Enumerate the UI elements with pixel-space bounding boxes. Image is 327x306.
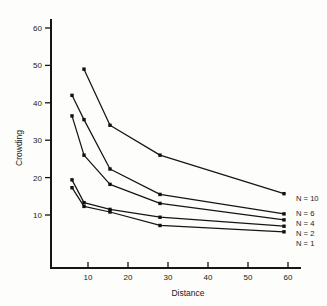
series-line	[84, 69, 284, 194]
x-axis-title: Distance	[171, 288, 204, 298]
y-axis-tick-labels: 60 50 40 30 20 10	[33, 24, 42, 220]
series-label-n1: N = 1	[296, 239, 314, 248]
crowding-vs-distance-figure: 60 50 40 30 20 10 10 20 30 40	[0, 0, 327, 306]
data-point	[158, 216, 161, 219]
series-line	[72, 188, 284, 232]
data-point	[158, 202, 161, 205]
data-point	[70, 94, 73, 97]
data-point	[108, 124, 111, 127]
y-tick-label-20: 20	[33, 174, 42, 183]
series-label-n10: N = 10	[296, 194, 319, 203]
x-tick-label-20: 20	[124, 273, 133, 282]
data-point	[70, 178, 73, 181]
data-point	[158, 224, 161, 227]
y-tick-label-10: 10	[33, 211, 42, 220]
series-label-n2: N = 2	[296, 229, 314, 238]
chart-canvas: 60 50 40 30 20 10 10 20 30 40	[0, 0, 327, 306]
x-tick-label-10: 10	[84, 273, 93, 282]
data-point	[108, 183, 111, 186]
data-point	[282, 225, 285, 228]
data-point	[282, 218, 285, 221]
data-point	[282, 192, 285, 195]
y-tick-label-60: 60	[33, 24, 42, 33]
y-tick-label-30: 30	[33, 136, 42, 145]
data-point	[158, 193, 161, 196]
x-tick-label-50: 50	[244, 273, 253, 282]
series-n6	[70, 94, 285, 216]
x-axis-tick-labels: 10 20 30 40 50 60	[84, 273, 293, 282]
y-tick-label-50: 50	[33, 61, 42, 70]
data-point	[158, 153, 161, 156]
data-point	[82, 67, 85, 70]
data-point	[70, 114, 73, 117]
x-tick-label-40: 40	[204, 273, 213, 282]
x-tick-label-60: 60	[284, 273, 293, 282]
data-point	[82, 118, 85, 121]
y-tick-label-40: 40	[33, 99, 42, 108]
data-point	[282, 212, 285, 215]
series-n10	[82, 67, 285, 195]
y-axis-title: Crowding	[14, 130, 24, 166]
series-line	[72, 180, 284, 226]
axis-group: 60 50 40 30 20 10 10 20 30 40	[14, 20, 300, 298]
series-label-n6: N = 6	[296, 209, 314, 218]
series-n4	[70, 114, 285, 221]
data-point	[70, 186, 73, 189]
series-labels: N = 10 N = 6 N = 4 N = 2 N = 1	[296, 194, 319, 248]
x-tick-label-30: 30	[164, 273, 173, 282]
series-label-n4: N = 4	[296, 219, 314, 228]
series-layer	[70, 67, 285, 233]
series-line	[72, 116, 284, 220]
data-point	[82, 153, 85, 156]
data-point	[108, 210, 111, 213]
data-point	[82, 205, 85, 208]
data-point	[108, 167, 111, 170]
series-n1	[70, 186, 285, 234]
series-n2	[70, 178, 285, 228]
data-point	[282, 230, 285, 233]
